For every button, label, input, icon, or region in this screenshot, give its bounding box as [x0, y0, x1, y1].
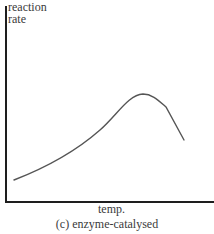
- enzyme-rate-figure: reaction rate temp. (c) enzyme-catalysed: [0, 0, 214, 234]
- x-axis-label: temp.: [98, 203, 125, 215]
- rate-vs-temp-plot: [0, 0, 214, 234]
- reaction-rate-curve: [14, 94, 184, 180]
- figure-caption: (c) enzyme-catalysed: [0, 218, 214, 231]
- y-axis-label-line2: rate: [8, 13, 47, 25]
- y-axis-label: reaction rate: [8, 1, 47, 25]
